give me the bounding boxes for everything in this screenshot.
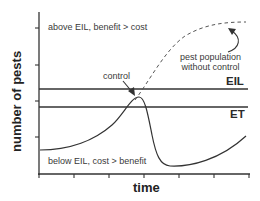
no-control-label-line2: without control xyxy=(180,62,241,72)
x-axis-title: time xyxy=(133,181,160,194)
eil-label: EIL xyxy=(226,76,244,88)
region-above-label: above EIL, benefit > cost xyxy=(48,23,147,32)
control-label: control xyxy=(103,72,130,81)
no-control-label-line1: pest population xyxy=(180,52,241,62)
pest-threshold-diagram: above EIL, benefit > cost below EIL, cos… xyxy=(0,0,260,201)
y-axis-title: number of pests xyxy=(10,51,23,152)
region-below-label: below EIL, cost > benefit xyxy=(48,157,146,166)
curved-arrow-icon xyxy=(228,28,238,52)
no-control-label: pest population without control xyxy=(180,52,241,72)
et-label: ET xyxy=(230,109,245,121)
